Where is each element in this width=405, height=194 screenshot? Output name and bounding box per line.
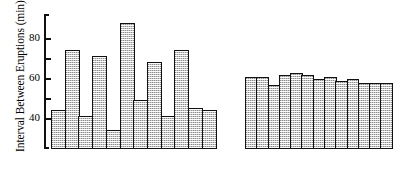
y-tick-label-60: 60 — [20, 72, 40, 83]
y-axis-title-container: Interval Between Eruptions (min) — [0, 0, 18, 155]
bar — [202, 110, 217, 149]
eruption-interval-bar-chart: Interval Between Eruptions (min) 80 60 4… — [0, 0, 405, 194]
y-tick-label-80: 80 — [20, 32, 40, 43]
bar-group-june-17-1949 — [51, 15, 217, 149]
y-axis — [44, 14, 51, 149]
y-tick-label-40: 40 — [20, 112, 40, 123]
y-axis-top-cap — [44, 14, 49, 16]
y-axis-bottom-cap — [44, 147, 49, 149]
y-axis-tick-labels: 80 60 40 — [18, 0, 40, 155]
bar — [380, 83, 393, 149]
y-axis-spine — [44, 14, 46, 149]
bar-group-sept-22-1949 — [245, 15, 393, 149]
